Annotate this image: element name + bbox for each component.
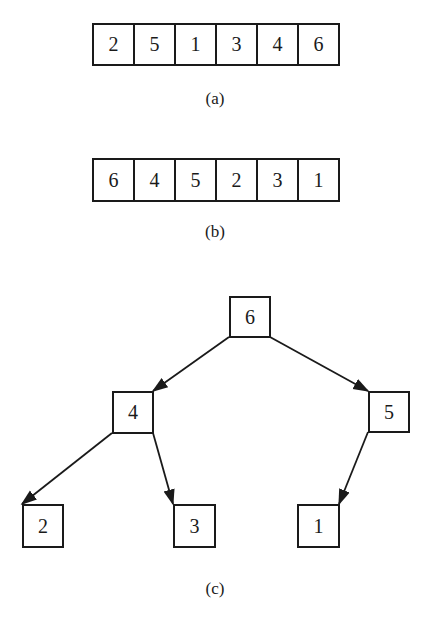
tree-node-5: 5 <box>368 391 410 433</box>
tree-node-1: 1 <box>297 504 340 548</box>
caption-c: (c) <box>206 579 225 599</box>
tree-edges <box>0 0 432 625</box>
tree-node-3: 3 <box>173 504 216 548</box>
tree-node-4: 4 <box>112 391 154 434</box>
edge-6-4 <box>153 337 229 391</box>
edge-6-5 <box>270 337 368 391</box>
tree-node-2: 2 <box>22 504 64 548</box>
edge-4-2 <box>22 433 112 504</box>
edge-4-3 <box>153 433 173 504</box>
edge-5-1 <box>339 432 368 504</box>
tree-node-6: 6 <box>229 296 271 338</box>
